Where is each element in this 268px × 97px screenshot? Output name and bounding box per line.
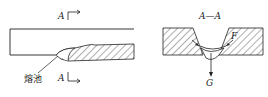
plate-top-view: [10, 29, 134, 61]
section-label-bottom: A: [58, 74, 65, 83]
section-label-top: A: [58, 12, 65, 21]
weld-pool-leader: [38, 56, 58, 73]
weld-pool-label: 熔池: [24, 75, 42, 84]
cross-section: [163, 28, 263, 77]
section-marker-bottom: [68, 72, 80, 83]
gravity-label: G: [206, 79, 213, 88]
section-marker-top: [68, 10, 80, 20]
section-title: A—A: [199, 12, 221, 21]
force-label: F: [231, 32, 237, 41]
